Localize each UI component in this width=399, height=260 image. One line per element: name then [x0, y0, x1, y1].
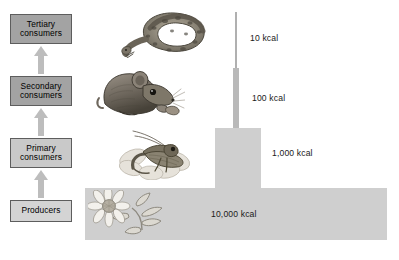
- trophic-box-tertiary-consumers: Tertiary consumers: [10, 14, 72, 44]
- arrow-shaft: [38, 55, 44, 74]
- energy-label-producers: 10,000 kcal: [211, 209, 257, 219]
- mouse-illustration: [95, 64, 185, 122]
- energy-label-secondary: 100 kcal: [252, 93, 285, 103]
- energy-label-tertiary: 10 kcal: [250, 33, 278, 43]
- energy-flow-arrow-up-icon: [34, 170, 48, 198]
- trophic-box-producers-line1: Producers: [21, 206, 60, 215]
- energy-pyramid-figure: 10 kcal 100 kcal 1,000 kcal 10,000 kcal …: [0, 0, 399, 260]
- trophic-box-tertiary-line2: consumers: [20, 29, 62, 38]
- energy-bar-primary-consumers: [215, 128, 261, 188]
- trophic-box-producers: Producers: [10, 200, 72, 222]
- snake-illustration: [120, 6, 212, 58]
- trophic-box-secondary-consumers: Secondary consumers: [10, 76, 72, 106]
- arrow-head: [34, 108, 48, 118]
- energy-label-primary: 1,000 kcal: [272, 148, 313, 158]
- trophic-box-primary-line2: consumers: [20, 153, 62, 162]
- trophic-box-primary-consumers: Primary consumers: [10, 138, 72, 168]
- flower-illustration: [88, 190, 166, 238]
- arrow-head: [34, 170, 48, 180]
- arrow-shaft: [38, 117, 44, 136]
- trophic-box-secondary-line2: consumers: [20, 91, 62, 100]
- energy-bar-secondary-consumers: [233, 68, 239, 128]
- energy-flow-arrow-up-icon: [34, 108, 48, 136]
- arrow-shaft: [38, 179, 44, 198]
- grasshopper-illustration: [115, 128, 197, 180]
- energy-flow-arrow-up-icon: [34, 46, 48, 74]
- arrow-head: [34, 46, 48, 56]
- energy-bar-tertiary-consumers: [235, 12, 237, 68]
